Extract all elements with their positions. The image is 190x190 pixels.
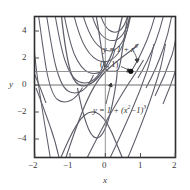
x-axis-title: x xyxy=(103,176,107,185)
y-tick-label-0: 0 xyxy=(22,80,27,89)
marked-point-1-1 xyxy=(128,69,133,74)
annotation-curve-x6-text: y = 1 + x xyxy=(103,44,135,54)
x-tick-label-2: 2 xyxy=(172,161,177,170)
annotation-curve-main-prefix: y = 1 + (x xyxy=(93,105,128,115)
annotation-curve-main-mid: −1) xyxy=(131,105,144,115)
curve-deep-w xyxy=(59,112,124,162)
y-axis-title: y xyxy=(9,80,13,89)
leader-arrow-main-curve xyxy=(106,86,111,105)
y-tick-label-2: 2 xyxy=(22,53,27,62)
y-tick-label-4: 4 xyxy=(22,26,27,35)
annotation-curve-x6: y = 1 + x6 xyxy=(103,44,138,53)
y-tick-label-minus2: −2 xyxy=(17,107,27,116)
curve-family xyxy=(30,10,180,162)
annotation-curve-main: y = 1 + (x2−1)3 xyxy=(93,105,146,114)
annotation-curve-main-exponent: 3 xyxy=(143,104,146,110)
chart-figure: 4 2 0 −2 −4 −2 −1 0 1 2 y x y = 1 + x6 (… xyxy=(0,0,190,190)
leader-arrowhead-main-curve xyxy=(109,83,113,87)
curve-right-5 xyxy=(146,12,173,88)
x-tick-label-minus1: −1 xyxy=(63,161,73,170)
curve-right-3 xyxy=(132,12,156,70)
leader-arrowhead-x6 xyxy=(135,59,139,63)
annotation-point-label: (1, 1) xyxy=(100,60,118,69)
y-tick-label-minus4: −4 xyxy=(17,134,27,143)
annotation-curve-x6-exponent: 6 xyxy=(135,43,138,49)
x-tick-label-0: 0 xyxy=(102,161,107,170)
curve-right-7 xyxy=(163,58,180,104)
x-tick-label-minus2: −2 xyxy=(28,161,38,170)
curve-inner-4 xyxy=(100,12,129,32)
curve-right-2 xyxy=(126,44,166,162)
x-tick-label-1: 1 xyxy=(138,161,143,170)
